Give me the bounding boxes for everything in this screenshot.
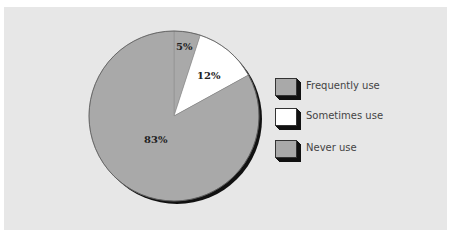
legend-item-frequently-use: Frequently use xyxy=(275,78,425,100)
slice-label-never: 83% xyxy=(144,134,167,145)
legend-item-sometimes-use: Sometimes use xyxy=(275,108,425,130)
legend-item-never-use: Never use xyxy=(275,140,425,162)
legend-label: Frequently use xyxy=(306,80,380,91)
slice-label-frequently: 5% xyxy=(176,41,192,52)
legend-label: Never use xyxy=(306,142,357,153)
slice-label-sometimes: 12% xyxy=(197,70,220,81)
chart-panel: 5% 12% 83% Frequently use Sometimes use … xyxy=(4,7,447,230)
legend-swatch-icon xyxy=(275,78,297,96)
legend-swatch-icon xyxy=(275,140,297,158)
legend-swatch-icon xyxy=(275,108,297,126)
pie-slices xyxy=(89,31,259,201)
legend-label: Sometimes use xyxy=(306,110,383,121)
